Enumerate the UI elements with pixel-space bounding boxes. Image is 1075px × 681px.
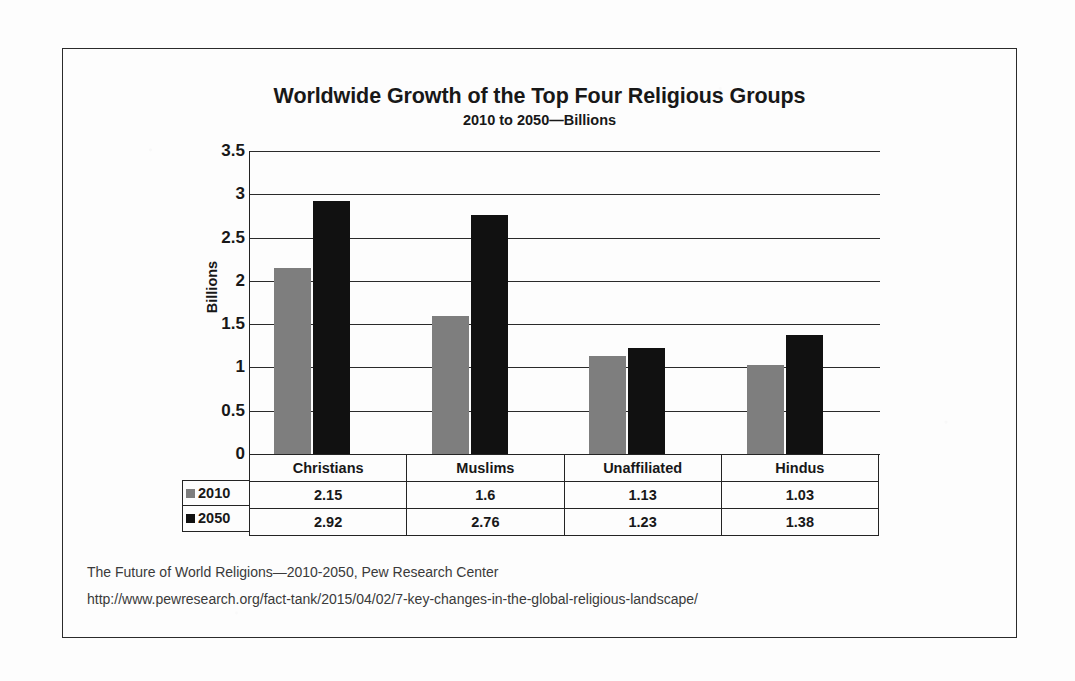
legend-label: 2050 [198,511,230,526]
chart-frame: Worldwide Growth of the Top Four Religio… [62,48,1017,638]
bar-series-container [250,151,880,454]
legend-swatch-icon [186,514,195,523]
y-tick-label: 2.5 [183,228,245,248]
bar-muslims-2010 [432,316,469,455]
table-cell-christians-2010: 2.15 [250,482,407,509]
footer-citation: The Future of World Religions—2010-2050,… [87,559,997,586]
table-header-unaffiliated: Unaffiliated [564,455,721,482]
bar-group [408,151,566,454]
bar-hindus-2010 [747,365,784,454]
table-cell-muslims-2010: 1.6 [407,482,564,509]
bar-christians-2010 [274,268,311,454]
table-header-row: ChristiansMuslimsUnaffiliatedHindus [250,455,879,482]
legend: 20102050 [182,480,250,532]
table-header-hindus: Hindus [721,455,878,482]
table-header-muslims: Muslims [407,455,564,482]
legend-label: 2010 [198,486,230,501]
table-cell-unaffiliated-2010: 1.13 [564,482,721,509]
table-row: 2.922.761.231.38 [250,509,879,536]
footer-url[interactable]: http://www.pewresearch.org/fact-tank/201… [87,586,997,613]
bar-group [250,151,408,454]
y-tick-label: 0.5 [183,401,245,421]
legend-item-2050: 2050 [182,506,250,532]
table-cell-hindus-2050: 1.38 [721,509,878,536]
bar-group [565,151,723,454]
table-cell-muslims-2050: 2.76 [407,509,564,536]
table-cell-christians-2050: 2.92 [250,509,407,536]
bar-christians-2050 [313,201,350,454]
plot-area [249,151,879,454]
y-tick-label: 1.5 [183,314,245,334]
bar-unaffiliated-2050 [628,348,665,454]
table-cell-unaffiliated-2050: 1.23 [564,509,721,536]
plot-area-wrapper: Billions 3.532.521.510.50 20102050 Chris… [63,49,1018,639]
bar-hindus-2050 [786,335,823,454]
legend-swatch-icon [186,489,195,498]
bar-unaffiliated-2010 [589,356,626,454]
table-header-christians: Christians [250,455,407,482]
y-tick-label: 3.5 [183,141,245,161]
y-tick-label: 2 [183,271,245,291]
y-axis-tick-labels: 3.532.521.510.50 [183,49,245,639]
bar-muslims-2050 [471,215,508,454]
data-table: ChristiansMuslimsUnaffiliatedHindus2.151… [249,454,879,536]
legend-item-2010: 2010 [182,480,250,506]
y-tick-label: 1 [183,357,245,377]
y-tick-label: 0 [183,444,245,464]
bar-group [723,151,881,454]
table-cell-hindus-2010: 1.03 [721,482,878,509]
source-footer: The Future of World Religions—2010-2050,… [87,559,997,614]
y-tick-label: 3 [183,184,245,204]
table-row: 2.151.61.131.03 [250,482,879,509]
